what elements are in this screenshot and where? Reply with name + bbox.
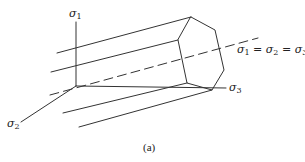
figure-caption: (a) xyxy=(143,142,155,153)
yield-surface-diagram: σ1 σ2 σ3 σ1 = σ2 = σ3 (a) xyxy=(0,0,305,162)
sigma2-axis xyxy=(21,86,76,122)
diagram-canvas xyxy=(0,0,305,162)
sigma2-label: σ2 xyxy=(7,118,20,131)
sigma1-label: σ1 xyxy=(69,8,82,21)
prism-edge-upper-left xyxy=(51,40,178,72)
prism-edge-bottom xyxy=(79,90,212,127)
sigma3-label: σ3 xyxy=(229,82,242,95)
hydrostatic-axis-label: σ1 = σ2 = σ3 xyxy=(237,44,305,57)
prism-edge-top xyxy=(57,17,191,53)
prism-edge-lower-left xyxy=(63,83,187,113)
